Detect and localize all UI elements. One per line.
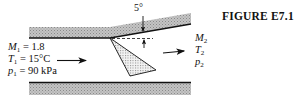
value: = 1.8 bbox=[20, 41, 44, 52]
wall-angle-label: 5° bbox=[134, 2, 143, 13]
subscript: 2 bbox=[200, 61, 204, 69]
downstream-flow-arrow-icon bbox=[163, 51, 184, 53]
symbol: M bbox=[195, 32, 204, 43]
value: = 90 kPa bbox=[17, 65, 57, 76]
bottom-wall bbox=[29, 83, 191, 95]
upstream-pressure-label: p1 = 90 kPa bbox=[8, 65, 57, 80]
downstream-pressure-label: p2 bbox=[195, 56, 204, 71]
top-wall bbox=[29, 13, 191, 38]
value: = 15°C bbox=[17, 53, 50, 64]
figure-caption: FIGURE E7.1 bbox=[222, 10, 294, 22]
oblique-shock-region bbox=[110, 38, 156, 76]
symbol: M bbox=[8, 41, 17, 52]
